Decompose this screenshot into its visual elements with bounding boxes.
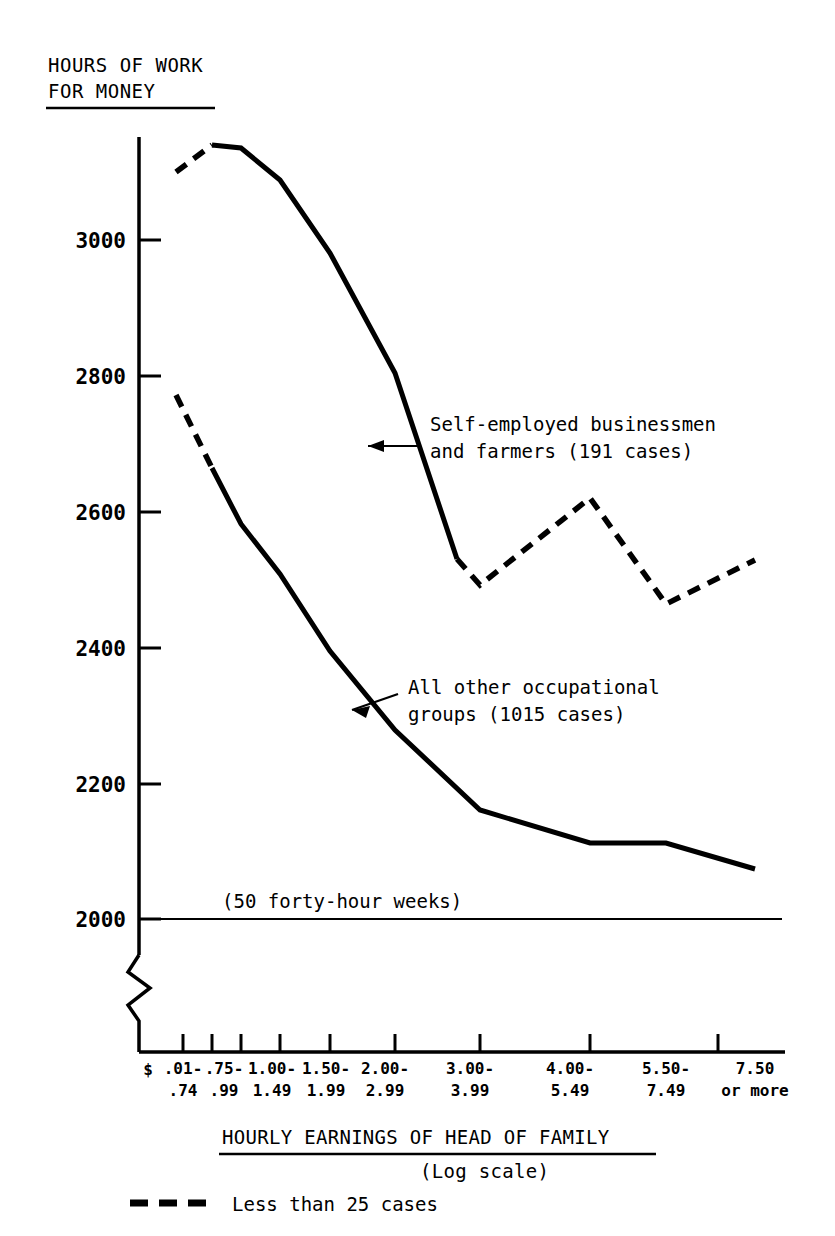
legend: Less than 25 cases: [130, 1193, 438, 1215]
chart-figure: HOURS OF WORK FOR MONEY 3000 2800 2600 2…: [0, 0, 835, 1236]
y-tick-label-2200: 2200: [75, 773, 126, 797]
y-tick-marks: [139, 240, 161, 919]
x-tick-label-8-line2: 7.49: [647, 1081, 686, 1100]
series-self-employed-dash-end: [457, 498, 755, 604]
x-tick-marks: [183, 1034, 718, 1052]
x-tick-labels: .01- .74 .75- .99 1.00- 1.49 1.50- 1.99 …: [164, 1059, 789, 1100]
annotation-all-other: All other occupational groups (1015 case…: [352, 676, 660, 725]
y-axis-break-icon: [128, 955, 150, 1052]
series-all-other-solid: [212, 468, 755, 869]
x-tick-label-9-line2: or more: [721, 1081, 788, 1100]
x-tick-label-6-line1: 3.00-: [446, 1059, 494, 1078]
x-tick-label-1-line2: .74: [169, 1081, 198, 1100]
chart-svg: HOURS OF WORK FOR MONEY 3000 2800 2600 2…: [0, 0, 835, 1236]
series-all-other-dash-start: [176, 395, 212, 468]
arrow-head-icon: [368, 440, 384, 452]
chart-title-line2: FOR MONEY: [48, 80, 156, 102]
chart-title-line1: HOURS OF WORK: [48, 54, 203, 76]
x-tick-label-4-line1: 1.50-: [302, 1059, 350, 1078]
x-tick-label-7-line2: 5.49: [551, 1081, 590, 1100]
series-self-employed-solid: [212, 145, 457, 559]
x-tick-label-3-line2: 1.49: [253, 1081, 292, 1100]
reference-line-label: (50 forty-hour weeks): [222, 890, 462, 912]
x-axis-subtitle: (Log scale): [420, 1160, 549, 1182]
legend-dash-label: Less than 25 cases: [232, 1193, 438, 1215]
x-axis-title: HOURLY EARNINGS OF HEAD OF FAMILY: [222, 1126, 610, 1148]
y-tick-label-2400: 2400: [75, 637, 126, 661]
x-tick-label-5-line2: 2.99: [366, 1081, 405, 1100]
x-tick-label-2-line1: .75-: [205, 1059, 244, 1078]
annotation-self-employed-line1: Self-employed businessmen: [430, 413, 716, 435]
x-tick-label-8-line1: 5.50-: [642, 1059, 690, 1078]
x-tick-label-6-line2: 3.99: [451, 1081, 490, 1100]
x-tick-label-9-line1: 7.50: [736, 1059, 775, 1078]
x-tick-label-5-line1: 2.00-: [361, 1059, 409, 1078]
x-tick-label-1-line1: .01-: [164, 1059, 203, 1078]
y-tick-label-2800: 2800: [75, 365, 126, 389]
annotation-all-other-line1: All other occupational: [408, 676, 660, 698]
annotation-self-employed-line2: and farmers (191 cases): [430, 440, 693, 462]
series-self-employed-dash-start: [176, 145, 212, 172]
y-tick-label-3000: 3000: [75, 229, 126, 253]
y-tick-label-2000: 2000: [75, 908, 126, 932]
y-tick-label-2600: 2600: [75, 501, 126, 525]
annotation-all-other-line2: groups (1015 cases): [408, 703, 625, 725]
x-axis-dollar-sign: $: [143, 1060, 153, 1079]
x-tick-label-3-line1: 1.00-: [248, 1059, 296, 1078]
x-tick-label-7-line1: 4.00-: [546, 1059, 594, 1078]
x-tick-label-4-line2: 1.99: [307, 1081, 346, 1100]
x-tick-label-2-line2: .99: [210, 1081, 239, 1100]
